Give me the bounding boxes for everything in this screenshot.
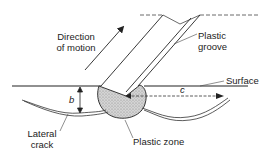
zone-leader-line [125,120,133,138]
b-label: b [69,94,74,105]
direction-of-motion-label: Direction of motion [54,31,98,53]
lateral-crack-label: Lateral crack [27,128,57,150]
c-label: c [180,84,185,95]
surface-leader-line [200,81,224,86]
depth-b-dimension [78,87,83,113]
surface-label: Surface [226,75,259,86]
plastic-zone-label: Plastic zone [133,136,184,147]
plastic-groove-label: Plastic groove [198,30,227,52]
crack-leader-line [60,114,68,131]
indenter-tool [101,15,200,92]
groove-leader-line [174,34,197,44]
